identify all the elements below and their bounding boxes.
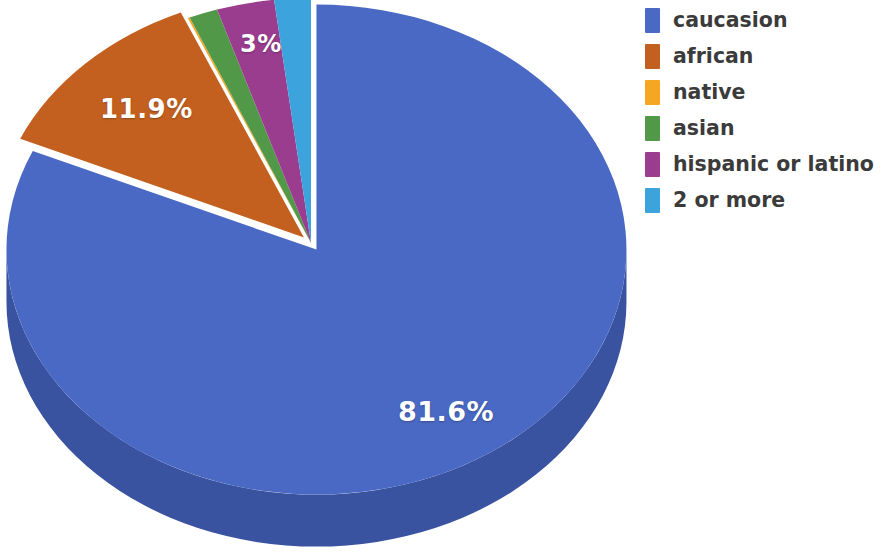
chart-legend: caucasionafricannativeasianhispanic or l… bbox=[645, 2, 882, 218]
pie-chart-figure: 81.6% 11.9% 3% caucasionafricannativeasi… bbox=[0, 0, 882, 558]
legend-swatch-icon bbox=[645, 116, 660, 141]
legend-swatch-icon bbox=[645, 80, 660, 105]
legend-item-label: 2 or more bbox=[673, 190, 785, 211]
pie-svg bbox=[0, 0, 640, 558]
legend-item[interactable]: african bbox=[645, 38, 882, 74]
legend-item[interactable]: hispanic or latino bbox=[645, 146, 882, 182]
legend-swatch-icon bbox=[645, 44, 660, 69]
legend-item-label: asian bbox=[673, 118, 735, 139]
legend-item[interactable]: asian bbox=[645, 110, 882, 146]
legend-item[interactable]: caucasion bbox=[645, 2, 882, 38]
legend-item-label: caucasion bbox=[673, 10, 787, 31]
legend-item[interactable]: 2 or more bbox=[645, 182, 882, 218]
legend-swatch-icon bbox=[645, 152, 660, 177]
legend-item-label: african bbox=[673, 46, 753, 67]
pie-plot-area: 81.6% 11.9% 3% bbox=[0, 0, 640, 558]
legend-swatch-icon bbox=[645, 188, 660, 213]
legend-item-label: hispanic or latino bbox=[673, 154, 874, 175]
legend-item[interactable]: native bbox=[645, 74, 882, 110]
legend-swatch-icon bbox=[645, 8, 660, 33]
legend-item-label: native bbox=[673, 82, 746, 103]
